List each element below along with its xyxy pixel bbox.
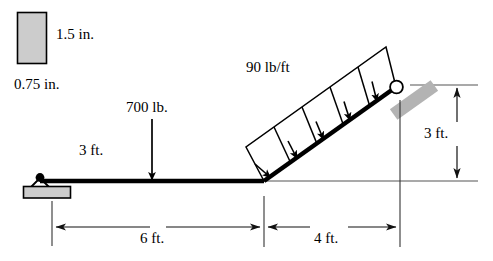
load-divider-1 <box>274 127 290 162</box>
load-divider-3 <box>330 87 343 125</box>
dimension-3ft-horizontal-label: 3 ft. <box>79 143 103 158</box>
load-divider-4 <box>358 67 370 106</box>
dimension-4ft-label: 4 ft. <box>314 231 338 246</box>
distributed-load-label: 90 lb/ft <box>246 60 290 75</box>
roller-support <box>390 80 438 120</box>
point-load-label: 700 lb. <box>126 100 168 115</box>
dimension-3ft-vertical-label: 3 ft. <box>424 126 448 141</box>
pin-base-block <box>24 187 71 199</box>
pin-support <box>24 173 71 198</box>
dimension-6ft-label: 6 ft. <box>140 231 164 246</box>
inclined-beam-segment <box>264 87 396 181</box>
load-divider-2 <box>302 107 317 143</box>
cross-section-rectangle <box>18 13 47 64</box>
cross-section-width-label: 0.75 in. <box>14 77 59 92</box>
distributed-load-arrows <box>255 82 377 178</box>
cross-section-height-label: 1.5 in. <box>56 27 94 42</box>
beam-member <box>40 87 396 181</box>
statics-beam-figure: 1.5 in. 0.75 in. 90 lb/ft 700 lb. 3 ft. … <box>0 0 493 261</box>
roller-circle <box>390 81 403 94</box>
